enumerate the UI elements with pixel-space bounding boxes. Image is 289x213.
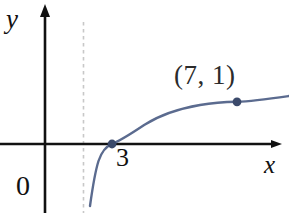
y-axis-label: y [6, 6, 18, 33]
coordinate-plot [0, 0, 289, 213]
graph-figure: y x 0 3 (7, 1) [0, 0, 289, 213]
x-axis-label: x [264, 152, 275, 177]
origin-label: 0 [16, 172, 30, 200]
x-intercept-tick-label: 3 [116, 145, 129, 171]
point-coordinate-label: (7, 1) [174, 62, 235, 89]
point-seven-one [233, 97, 242, 106]
